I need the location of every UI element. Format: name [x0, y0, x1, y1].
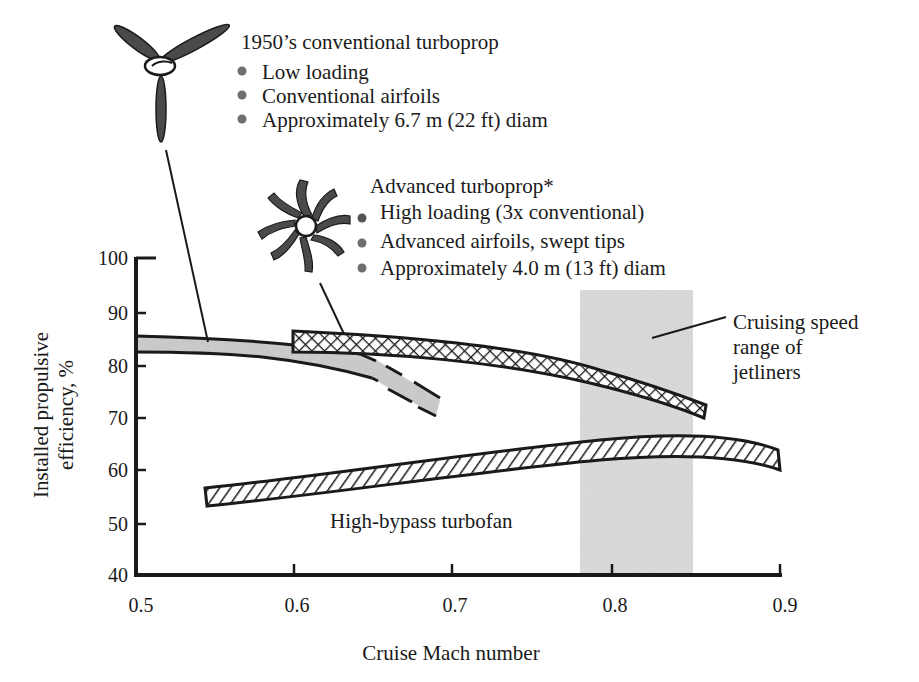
- cruise-speed-region: [580, 290, 693, 575]
- eight-blade-propfan-icon: [258, 180, 350, 272]
- bullet-icon: [238, 115, 247, 124]
- bullet-icon: [358, 239, 367, 248]
- y-tick-100: 100: [98, 247, 128, 269]
- y-axis-label-line-1: Installed propulsive: [29, 332, 53, 498]
- conventional-title: 1950’s conventional turboprop: [241, 30, 499, 54]
- advanced-bullet-3: Approximately 4.0 m (13 ft) diam: [380, 256, 666, 280]
- bullet-icon: [358, 214, 367, 223]
- advanced-title: Advanced turboprop*: [370, 174, 554, 198]
- x-tick-0.6: 0.6: [285, 594, 310, 616]
- x-axis-label: Cruise Mach number: [362, 641, 539, 665]
- x-tick-0.7: 0.7: [443, 594, 468, 616]
- conventional-leader-line: [166, 150, 208, 342]
- conventional-bullet-2: Conventional airfoils: [262, 84, 440, 108]
- advanced-leader-line: [320, 283, 344, 334]
- bullet-icon: [238, 91, 247, 100]
- x-tick-0.5: 0.5: [129, 594, 154, 616]
- advanced-annotation: Advanced turboprop* High loading (3x con…: [358, 174, 666, 280]
- advanced-bullet-1: High loading (3x conventional): [380, 200, 644, 224]
- turbofan-band: [205, 436, 780, 506]
- y-axis-label: Installed propulsive efficiency, %: [29, 332, 78, 498]
- conventional-bullet-1: Low loading: [262, 60, 369, 84]
- y-tick-70: 70: [108, 407, 128, 429]
- conventional-annotation: 1950’s conventional turboprop Low loadin…: [238, 30, 548, 132]
- chart-canvas: 40 50 60 70 80 90 100 0.5 0.6 0.7 0.8 0.…: [0, 0, 919, 682]
- cruise-line-1: Cruising speed: [733, 310, 859, 334]
- x-tick-0.9: 0.9: [773, 594, 798, 616]
- y-tick-80: 80: [108, 355, 128, 377]
- cruise-line-3: jetliners: [732, 360, 801, 384]
- y-tick-90: 90: [108, 302, 128, 324]
- y-tick-40: 40: [108, 564, 128, 586]
- advanced-bullet-2: Advanced airfoils, swept tips: [380, 229, 625, 253]
- turbofan-label: High-bypass turbofan: [330, 509, 513, 533]
- y-axis-label-line-2: efficiency, %: [54, 360, 78, 470]
- y-tick-labels: 40 50 60 70 80 90 100: [98, 247, 128, 586]
- y-tick-60: 60: [108, 459, 128, 481]
- cruise-line-2: range of: [733, 335, 802, 359]
- bullet-icon: [238, 67, 247, 76]
- three-blade-propeller-icon: [111, 20, 232, 142]
- x-tick-labels: 0.5 0.6 0.7 0.8 0.9: [129, 594, 798, 616]
- y-tick-50: 50: [108, 513, 128, 535]
- y-axis: [136, 257, 156, 576]
- conventional-bullet-3: Approximately 6.7 m (22 ft) diam: [262, 108, 548, 132]
- bullet-icon: [358, 264, 367, 273]
- x-tick-0.8: 0.8: [603, 594, 628, 616]
